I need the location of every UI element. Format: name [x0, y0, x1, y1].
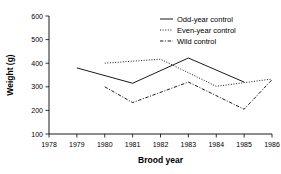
legend-label-0: Odd-year control [177, 15, 233, 24]
legend-label-1: Even-year control [177, 26, 236, 35]
x-axis-title: Brood year [138, 155, 184, 165]
y-axis-title: Weight (g) [5, 54, 15, 96]
series-line-0 [77, 58, 244, 83]
x-tick-label: 1979 [69, 141, 85, 148]
chart-canvas: 1002003004005006001978197919801981198219… [0, 0, 281, 174]
legend-label-2: Wild control [177, 37, 217, 46]
y-tick-label: 400 [31, 60, 43, 67]
y-tick-label: 600 [31, 13, 43, 20]
series-line-2 [105, 80, 272, 110]
y-tick-label: 500 [31, 36, 43, 43]
x-tick-label: 1983 [181, 141, 197, 148]
x-tick-label: 1986 [264, 141, 280, 148]
x-tick-label: 1980 [97, 141, 113, 148]
line-chart: 1002003004005006001978197919801981198219… [0, 0, 281, 174]
x-tick-label: 1978 [41, 141, 57, 148]
x-tick-label: 1982 [153, 141, 169, 148]
x-tick-label: 1984 [208, 141, 224, 148]
x-tick-label: 1985 [236, 141, 252, 148]
x-tick-label: 1981 [125, 141, 141, 148]
y-tick-label: 100 [31, 131, 43, 138]
y-tick-label: 300 [31, 83, 43, 90]
y-tick-label: 200 [31, 107, 43, 114]
